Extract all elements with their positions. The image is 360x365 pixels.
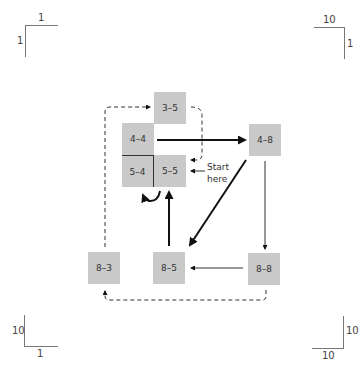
cell-8-5-label: 8–5 — [161, 263, 177, 273]
cell-8-3-label: 8–3 — [96, 263, 112, 273]
edge-3-5-to-5-5 — [191, 107, 202, 160]
start-here-note: Start here — [207, 161, 229, 185]
cell-5-5: 5–5 — [154, 155, 186, 187]
cell-5-5-label: 5–5 — [162, 166, 178, 176]
cell-5-4: 5–4 — [122, 155, 154, 187]
cell-4-4: 4–4 — [122, 123, 154, 155]
cell-5-4-label: 5–4 — [130, 167, 146, 177]
cell-8-3: 8–3 — [88, 252, 120, 284]
cell-3-5: 3–5 — [154, 92, 186, 124]
cell-4-8-label: 4–8 — [257, 135, 273, 145]
cell-4-8: 4–8 — [249, 124, 281, 156]
edge-5-5-to-5-4 — [143, 191, 160, 201]
start-here-line2: here — [207, 173, 229, 185]
start-here-line1: Start — [207, 161, 229, 173]
cell-8-8-label: 8–8 — [256, 264, 272, 274]
cell-8-5: 8–5 — [153, 252, 185, 284]
edge-8-8-to-8-3 — [105, 290, 266, 300]
cell-8-8: 8–8 — [248, 253, 280, 285]
cell-3-5-label: 3–5 — [162, 103, 178, 113]
cell-4-4-label: 4–4 — [130, 134, 146, 144]
